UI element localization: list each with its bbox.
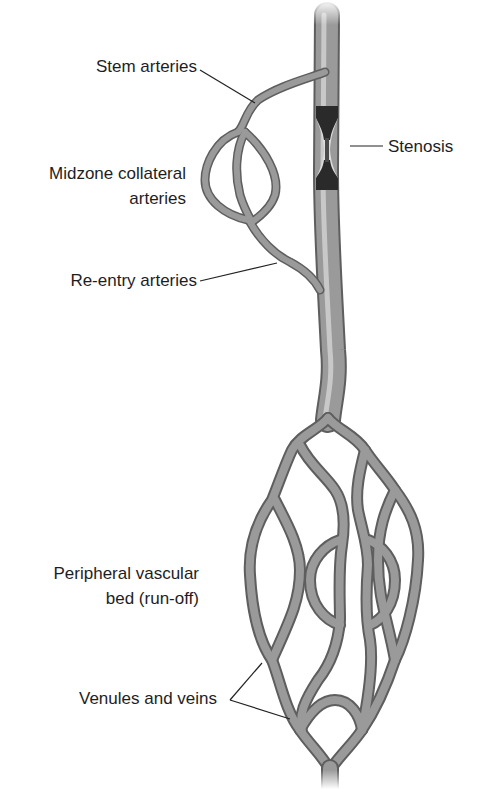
label-venules-veins: Venules and veins (0, 688, 217, 709)
label-stem-arteries: Stem arteries (40, 56, 197, 77)
label-midzone-line1: Midzone collateral (0, 163, 186, 184)
label-stenosis: Stenosis (388, 136, 453, 157)
label-reentry-arteries: Re-entry arteries (0, 270, 197, 291)
label-peripheral-line2: bed (run-off) (0, 588, 199, 609)
collateral-arteries (205, 72, 325, 290)
label-midzone-line2: arteries (0, 188, 186, 209)
peripheral-vascular-bed (250, 418, 419, 789)
leader-venules-1 (230, 663, 262, 700)
vascular-diagram (0, 0, 488, 789)
leader-stem-arteries (200, 70, 255, 103)
leader-reentry-arteries (200, 263, 277, 281)
label-peripheral-line1: Peripheral vascular (0, 563, 199, 584)
